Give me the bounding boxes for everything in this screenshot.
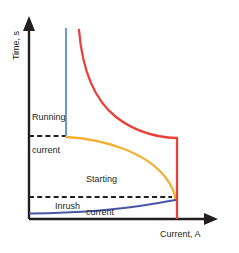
series-starting-current-curve xyxy=(66,137,176,200)
current-time-characteristic-chart: Time, s Current, A Running current Start… xyxy=(0,0,239,253)
x-axis-arrowhead xyxy=(204,213,218,225)
annotation-starting-current-line2: current xyxy=(86,207,117,218)
annotation-inrush: Inrush xyxy=(55,201,80,212)
annotation-running-current-line1: Running xyxy=(32,112,66,123)
x-axis-label: Current, A xyxy=(160,229,201,240)
series-trip-characteristic-curve xyxy=(79,30,177,138)
y-axis-label: Time, s xyxy=(11,16,22,76)
y-axis-arrowhead xyxy=(23,16,35,31)
annotation-running-current-line2: current xyxy=(32,145,66,156)
annotation-starting-current-line1: Starting xyxy=(86,174,117,185)
annotation-running-current: Running current xyxy=(32,90,66,178)
annotation-starting-current: Starting current xyxy=(86,152,117,240)
